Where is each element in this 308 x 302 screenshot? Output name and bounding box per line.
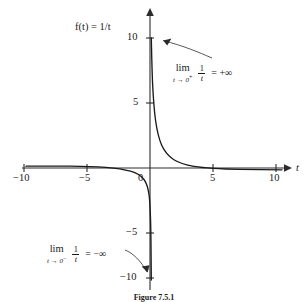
lower-lim-subscript: t → 0− xyxy=(47,255,66,265)
lower-frac-numerator: 1 xyxy=(74,245,78,254)
curve-branch-positive xyxy=(151,38,282,170)
figure-title: f(t) = 1/t xyxy=(75,22,111,33)
upper-lim-subscript: t → 0+ xyxy=(173,74,192,84)
upper-lim-approach: t → 0 xyxy=(173,76,189,84)
x-tick-label-neg5: −5 xyxy=(79,173,90,184)
lower-limit-operator: lim t → 0− xyxy=(47,244,66,265)
upper-limit-annotation: lim t → 0+ 1 t = +∞ xyxy=(173,63,232,84)
x-tick-label-0: 0 xyxy=(138,173,143,184)
x-tick-label-5: 5 xyxy=(210,173,215,184)
upper-limit-operator: lim t → 0+ xyxy=(173,63,192,84)
lower-lim-sign: − xyxy=(63,255,66,261)
upper-frac-denominator: t xyxy=(201,74,203,83)
figure-caption: Figure 7.5.1 xyxy=(0,293,308,302)
lower-limit-result: = −∞ xyxy=(85,249,106,259)
lower-lim-approach: t → 0 xyxy=(47,257,63,265)
y-axis-arrow-icon xyxy=(146,8,154,16)
x-tick-label-neg10: −10 xyxy=(13,173,29,184)
x-axis-arrow-icon xyxy=(284,164,292,172)
x-axis-label: t xyxy=(296,163,299,174)
upper-limit-result: = +∞ xyxy=(211,68,232,78)
lower-limit-annotation: lim t → 0− 1 t = −∞ xyxy=(47,244,106,265)
lower-limit-fraction: 1 t xyxy=(72,245,79,264)
y-tick-label-neg10: −10 xyxy=(120,272,136,283)
upper-frac-numerator: 1 xyxy=(200,64,204,73)
y-tick-label-5: 5 xyxy=(133,97,138,108)
lower-limit-arrow-icon xyxy=(142,265,150,272)
lower-lim-word: lim xyxy=(50,244,64,255)
upper-limit-fraction: 1 t xyxy=(198,64,205,83)
lower-limit-leader-line xyxy=(125,250,147,272)
y-tick-label-neg5: −5 xyxy=(126,227,137,238)
upper-lim-word: lim xyxy=(176,63,190,74)
lower-frac-denominator: t xyxy=(75,255,77,264)
upper-lim-sign: + xyxy=(189,74,192,80)
upper-limit-leader-line xyxy=(163,41,212,59)
x-tick-label-10: 10 xyxy=(269,173,280,184)
y-tick-label-10: 10 xyxy=(127,32,138,43)
